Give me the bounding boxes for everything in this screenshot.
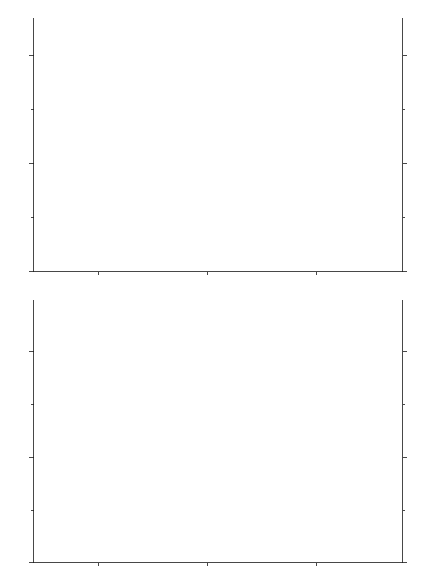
chart-panel-may-ducks bbox=[0, 0, 436, 290]
waterfowl-figure bbox=[0, 0, 436, 583]
january-plot bbox=[0, 290, 436, 583]
chart-panel-january-ducks-geese bbox=[0, 290, 436, 583]
may-ducks-plot bbox=[0, 0, 436, 290]
